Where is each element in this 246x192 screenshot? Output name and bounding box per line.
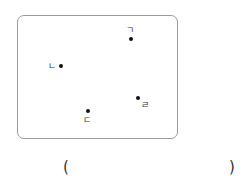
answer-open-paren: ( (63, 160, 69, 175)
point-digeut (86, 109, 90, 113)
label-rieul: ㄹ (141, 101, 149, 110)
point-rieul (136, 96, 140, 100)
point-nieun (59, 64, 63, 68)
point-giyeok (129, 37, 133, 41)
diagram-frame (17, 15, 178, 139)
label-giyeok: ㄱ (126, 26, 134, 35)
answer-close-paren: ) (229, 160, 235, 175)
label-nieun: ㄴ (48, 62, 56, 71)
label-digeut: ㄷ (83, 116, 91, 125)
